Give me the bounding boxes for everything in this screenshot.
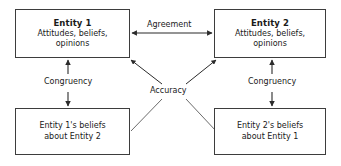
node-entity-1-line-2: opinions	[56, 39, 90, 50]
node-entity-2-beliefs: Entity 2's beliefs about Entity 1	[214, 108, 326, 155]
edge-label-accuracy: Accuracy	[148, 86, 189, 96]
node-entity-2-beliefs-line-2: about Entity 1	[242, 132, 299, 143]
node-entity-1-line-1: Attitudes, beliefs,	[37, 29, 107, 40]
node-entity-1-beliefs-line-1: Entity 1's beliefs	[39, 121, 105, 132]
edge-label-congruency-right: Congruency	[246, 77, 298, 87]
relationship-diagram: Entity 1 Attitudes, beliefs, opinions En…	[0, 0, 341, 166]
edge-label-congruency-left: Congruency	[42, 77, 94, 87]
node-entity-1-beliefs: Entity 1's beliefs about Entity 2	[15, 108, 130, 155]
node-entity-1-title: Entity 1	[53, 18, 91, 29]
node-entity-2-beliefs-line-1: Entity 2's beliefs	[237, 121, 303, 132]
node-entity-1: Entity 1 Attitudes, beliefs, opinions	[15, 9, 130, 58]
node-entity-1-beliefs-line-2: about Entity 2	[44, 132, 101, 143]
node-entity-2-title: Entity 2	[251, 18, 289, 29]
node-entity-2-line-1: Attitudes, beliefs,	[235, 29, 305, 40]
node-entity-2: Entity 2 Attitudes, beliefs, opinions	[214, 9, 326, 58]
node-entity-2-line-2: opinions	[253, 39, 287, 50]
edge-label-agreement: Agreement	[145, 20, 193, 30]
